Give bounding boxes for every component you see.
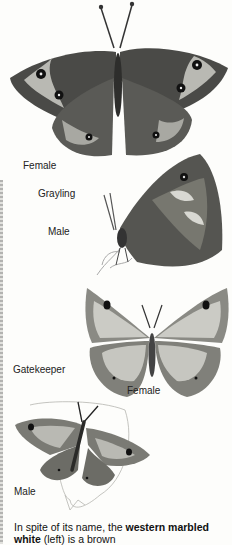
label-female-top: Female [23, 160, 56, 171]
label-species-gatekeeper: Gatekeeper [13, 364, 65, 375]
caption-part-2: (left) is a brown [41, 533, 116, 545]
label-female-gatekeeper: Female [127, 385, 160, 396]
label-male-grayling: Male [48, 226, 70, 237]
butterfly-illustration-female-top [4, 0, 232, 165]
label-male-gatekeeper: Male [14, 486, 36, 497]
label-species-grayling: Grayling [38, 188, 75, 199]
page-gutter-binding [0, 180, 3, 544]
butterfly-illustration-grayling-male [92, 150, 232, 280]
caption-text: In spite of its name, the western marble… [14, 521, 228, 545]
caption-part-1: In spite of its name, the [14, 521, 125, 533]
